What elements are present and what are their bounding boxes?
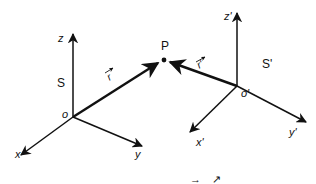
caption-fragment: → ↗ [190, 173, 221, 184]
z-axis-label: z [57, 32, 64, 44]
vector-r-prime: r' [170, 57, 237, 86]
x-axis [21, 117, 73, 155]
frame-s-prime: z' x' y' o' S' [190, 10, 306, 148]
point-p-label: P [161, 39, 169, 53]
reference-frames-diagram: z x y o S z' x' y' o' S' P r r' → ↗ [0, 0, 316, 184]
origin-o-label: o [62, 108, 68, 120]
y-prime-axis-label: y' [288, 126, 298, 138]
z-prime-axis-label: z' [223, 10, 233, 22]
point-p: P [161, 39, 169, 62]
x-axis-label: x [14, 148, 21, 160]
x-prime-axis [190, 86, 237, 132]
vector-r: r [73, 63, 158, 117]
vector-r-overarrow-icon [105, 68, 113, 73]
point-p-dot [162, 58, 167, 63]
caption-arrow-right: ↗ [212, 173, 221, 184]
origin-o-prime-label: o' [241, 87, 250, 99]
y-axis-label: y [134, 148, 142, 160]
frame-s: z x y o S [14, 32, 142, 160]
caption-arrow-left: → [190, 173, 201, 184]
y-axis [73, 117, 142, 146]
x-prime-axis-label: x' [195, 136, 205, 148]
vector-r-arrow [73, 63, 158, 117]
frame-s-prime-label: S' [262, 57, 272, 71]
frame-s-label: S [57, 76, 65, 90]
